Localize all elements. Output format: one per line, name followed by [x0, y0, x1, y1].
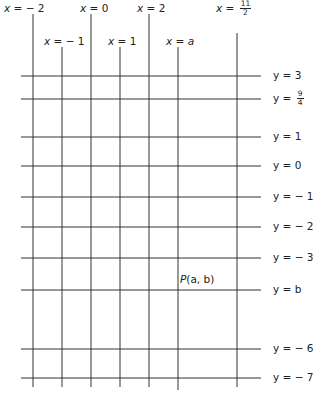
value: − 1 [66, 35, 85, 47]
eq: = [147, 2, 156, 14]
var: x [137, 2, 143, 14]
value: − 1 [295, 190, 314, 202]
var: x [44, 35, 50, 47]
value: − 6 [295, 342, 314, 354]
horizontal-line-label: y = 3 [273, 69, 301, 81]
var: x [166, 35, 172, 47]
eq: = [14, 2, 23, 14]
var: y [273, 371, 279, 383]
var: y [273, 69, 279, 81]
eq: = [283, 69, 292, 81]
horizontal-line-label: y = − 1 [273, 190, 314, 202]
vertical-line-label: x = − 1 [44, 35, 85, 47]
eq: = [283, 283, 292, 295]
eq: = [283, 130, 292, 142]
eq: = [283, 342, 292, 354]
vertical-line-label: x = 0 [80, 2, 108, 14]
eq: = [283, 92, 292, 104]
var: x [108, 35, 114, 47]
horizontal-line-label: y = − 2 [273, 220, 314, 232]
value: 1 [295, 130, 302, 142]
var: y [273, 92, 279, 104]
value: − 3 [295, 251, 314, 263]
fraction: 94 [297, 90, 304, 107]
eq: = [226, 2, 235, 14]
value: − 2 [295, 220, 314, 232]
fraction: 112 [240, 0, 252, 17]
var: x [216, 2, 222, 14]
value: 1 [130, 35, 137, 47]
horizontal-line-label: y = − 3 [273, 251, 314, 263]
value: 0 [295, 159, 302, 171]
vertical-line-label: x = 112 [216, 0, 251, 17]
var: y [273, 190, 279, 202]
var: y [273, 220, 279, 232]
denominator: 2 [243, 9, 248, 17]
var: y [273, 342, 279, 354]
horizontal-line-label: y = − 6 [273, 342, 314, 354]
vertical-line-label: x = 2 [137, 2, 165, 14]
vertical-line-label: x = 1 [108, 35, 136, 47]
eq: = [283, 371, 292, 383]
point-label: P(a, b) [180, 273, 214, 285]
horizontal-line-label: y = 1 [273, 130, 301, 142]
vertical-line-label: x = − 2 [4, 2, 45, 14]
var: y [273, 130, 279, 142]
eq: = [118, 35, 127, 47]
vertical-line-label: x = a [166, 35, 194, 47]
eq: = [283, 220, 292, 232]
horizontal-line-label: y = 94 [273, 90, 304, 107]
vertical-lines [33, 14, 237, 390]
var: y [273, 283, 279, 295]
eq: = [90, 2, 99, 14]
value: 0 [102, 2, 109, 14]
value: 2 [159, 2, 166, 14]
var: y [273, 159, 279, 171]
point-coords: (a, b) [186, 273, 214, 285]
horizontal-line-label: y = b [273, 283, 301, 295]
value: − 2 [26, 2, 45, 14]
eq: = [283, 190, 292, 202]
var: x [80, 2, 86, 14]
eq: = [283, 159, 292, 171]
value: − 7 [295, 371, 314, 383]
eq: = [54, 35, 63, 47]
var: y [273, 251, 279, 263]
horizontal-line-label: y = − 7 [273, 371, 314, 383]
horizontal-lines [21, 76, 261, 378]
eq: = [176, 35, 185, 47]
denominator: 4 [298, 99, 303, 107]
value: 3 [295, 69, 302, 81]
eq: = [283, 251, 292, 263]
var: x [4, 2, 10, 14]
value: a [188, 35, 194, 47]
value: b [295, 283, 302, 295]
horizontal-line-label: y = 0 [273, 159, 301, 171]
